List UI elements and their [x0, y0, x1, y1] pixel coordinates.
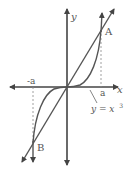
tick-label-a: a — [100, 88, 106, 98]
curve-label-exponent: 3 — [119, 102, 123, 109]
curve-label: y = x 3 — [90, 102, 123, 114]
graph-diagram: x y A B a -a y = x 3 — [0, 0, 127, 170]
curve-label-text: y = x — [90, 104, 114, 114]
point-b-label: B — [37, 142, 44, 153]
tick-label-neg-a: -a — [27, 76, 36, 86]
y-axis-label: y — [70, 11, 77, 22]
point-a-label: A — [104, 26, 113, 37]
curve-arrow-top — [101, 13, 102, 32]
x-axis-label: x — [117, 84, 123, 95]
curve-label-leader — [90, 90, 97, 103]
